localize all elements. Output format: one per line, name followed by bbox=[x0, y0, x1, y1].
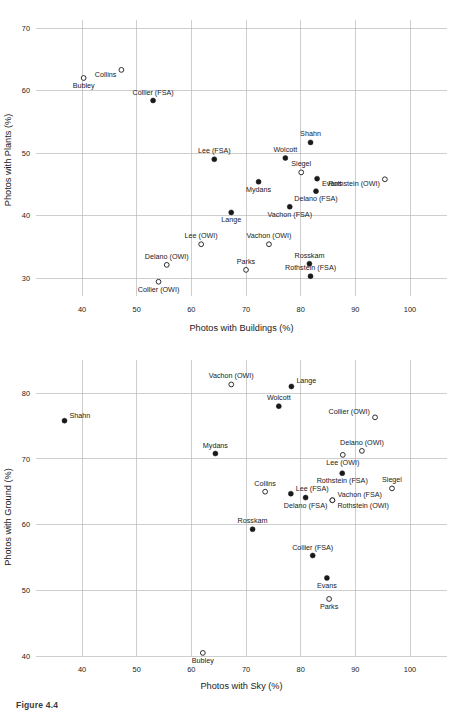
x-tick-label: 70 bbox=[242, 305, 250, 314]
data-point-label: Vachon (OWI) bbox=[209, 371, 254, 380]
y-tick-label: 60 bbox=[22, 520, 30, 529]
data-point-label: Delano (FSA) bbox=[294, 194, 338, 203]
data-point-label: Siegel bbox=[291, 159, 311, 168]
data-point-marker-filled[interactable] bbox=[289, 384, 294, 389]
data-point-marker-filled[interactable] bbox=[256, 179, 261, 184]
data-point-marker-open[interactable] bbox=[390, 486, 395, 491]
y-tick-label: 50 bbox=[22, 586, 30, 595]
y-axis-title: Photos with Ground (%) bbox=[3, 468, 13, 566]
data-point-marker-open[interactable] bbox=[340, 452, 345, 457]
y-axis-title: Photos with Plants (%) bbox=[3, 114, 13, 206]
data-point-label: Rothstein (OWI) bbox=[328, 179, 380, 188]
data-point-marker-filled[interactable] bbox=[283, 156, 288, 161]
data-point-marker-filled[interactable] bbox=[308, 274, 313, 279]
data-point-marker-open[interactable] bbox=[81, 76, 86, 81]
data-point-marker-filled[interactable] bbox=[303, 495, 308, 500]
data-point-label: Lee (FSA) bbox=[198, 146, 231, 155]
x-tick-label: 80 bbox=[297, 305, 305, 314]
data-point-marker-filled[interactable] bbox=[250, 527, 255, 532]
x-tick-label: 90 bbox=[351, 305, 359, 314]
data-point-label: Rothstein (FSA) bbox=[285, 263, 336, 272]
y-tick-label: 70 bbox=[22, 24, 30, 33]
data-point-marker-open[interactable] bbox=[119, 67, 124, 72]
data-point-marker-open[interactable] bbox=[263, 489, 268, 494]
data-point-marker-filled[interactable] bbox=[288, 491, 293, 496]
data-point-label: Collins bbox=[254, 479, 276, 488]
data-point-label: Rothstein (OWI) bbox=[337, 501, 389, 510]
data-point-label: Evans bbox=[317, 581, 337, 590]
x-tick-label: 60 bbox=[187, 665, 195, 674]
plot-area-bottom: 4050607080405060708090100Photos with Sky… bbox=[0, 352, 455, 692]
data-point-marker-open[interactable] bbox=[200, 651, 205, 656]
y-tick-label: 30 bbox=[22, 274, 30, 283]
x-tick-label: 100 bbox=[404, 665, 416, 674]
data-point-label: Lange bbox=[221, 215, 241, 224]
data-point-label: Vachon (FSA) bbox=[267, 210, 312, 219]
x-tick-label: 40 bbox=[78, 305, 86, 314]
x-tick-label: 80 bbox=[297, 665, 305, 674]
data-point-marker-filled[interactable] bbox=[276, 404, 281, 409]
data-point-label: Delano (OWI) bbox=[145, 252, 189, 261]
y-tick-label: 50 bbox=[22, 149, 30, 158]
data-point-marker-open[interactable] bbox=[360, 449, 365, 454]
data-point-label: Shahn bbox=[300, 129, 321, 138]
data-point-label: Delano (FSA) bbox=[284, 501, 328, 510]
data-point-marker-open[interactable] bbox=[382, 177, 387, 182]
data-point-marker-open[interactable] bbox=[299, 170, 304, 175]
data-point-marker-open[interactable] bbox=[330, 498, 335, 503]
data-point-label: Collier (FSA) bbox=[133, 88, 174, 97]
data-point-marker-filled[interactable] bbox=[213, 451, 218, 456]
scatter-chart-plants-vs-buildings: 3040506070405060708090100Photos with Bui… bbox=[0, 0, 455, 352]
data-point-label: Collier (OWI) bbox=[138, 285, 180, 294]
data-point-label: Lange bbox=[296, 376, 316, 385]
data-point-marker-filled[interactable] bbox=[308, 140, 313, 145]
data-point-marker-filled[interactable] bbox=[313, 189, 318, 194]
data-point-marker-filled[interactable] bbox=[340, 471, 345, 476]
x-tick-label: 90 bbox=[351, 665, 359, 674]
data-point-label: Rosskam bbox=[294, 251, 324, 260]
data-point-marker-open[interactable] bbox=[373, 415, 378, 420]
data-point-label: Parks bbox=[237, 257, 256, 266]
data-point-label: Siegel bbox=[382, 475, 402, 484]
data-point-label: Mydans bbox=[203, 441, 229, 450]
data-point-marker-open[interactable] bbox=[327, 597, 332, 602]
data-point-marker-filled[interactable] bbox=[229, 210, 234, 215]
data-point-marker-open[interactable] bbox=[164, 262, 169, 267]
data-point-marker-filled[interactable] bbox=[315, 176, 320, 181]
data-point-label: Vachon (OWI) bbox=[246, 231, 291, 240]
y-tick-label: 80 bbox=[22, 389, 30, 398]
data-point-marker-open[interactable] bbox=[229, 382, 234, 387]
y-tick-label: 60 bbox=[22, 86, 30, 95]
y-tick-label: 40 bbox=[22, 211, 30, 220]
data-point-label: Lee (OWI) bbox=[185, 231, 218, 240]
x-tick-label: 70 bbox=[242, 665, 250, 674]
data-point-marker-open[interactable] bbox=[244, 267, 249, 272]
figure-caption: Figure 4.4 bbox=[16, 700, 58, 711]
data-point-label: Wolcott bbox=[267, 393, 291, 402]
data-point-marker-filled[interactable] bbox=[62, 418, 67, 423]
data-point-marker-filled[interactable] bbox=[310, 553, 315, 558]
plot-area-top: 3040506070405060708090100Photos with Bui… bbox=[0, 0, 455, 352]
data-point-marker-filled[interactable] bbox=[287, 204, 292, 209]
data-point-label: Collins bbox=[95, 70, 117, 79]
data-point-label: Lee (FSA) bbox=[296, 484, 329, 493]
data-point-label: Delano (OWI) bbox=[340, 438, 384, 447]
data-point-marker-filled[interactable] bbox=[324, 575, 329, 580]
data-point-marker-filled[interactable] bbox=[151, 98, 156, 103]
data-point-label: Shahn bbox=[70, 411, 91, 420]
data-point-label: Vachon (FSA) bbox=[337, 490, 382, 499]
data-point-marker-open[interactable] bbox=[267, 242, 272, 247]
x-tick-label: 60 bbox=[187, 305, 195, 314]
data-point-label: Mydans bbox=[246, 185, 272, 194]
x-tick-label: 50 bbox=[133, 665, 141, 674]
data-point-marker-open[interactable] bbox=[156, 279, 161, 284]
data-point-marker-filled[interactable] bbox=[212, 157, 217, 162]
data-point-marker-open[interactable] bbox=[199, 242, 204, 247]
data-point-label: Lee (OWI) bbox=[326, 458, 359, 467]
y-tick-label: 40 bbox=[22, 652, 30, 661]
data-point-label: Bubley bbox=[73, 81, 95, 90]
data-point-label: Bubley bbox=[192, 656, 214, 665]
data-point-label: Parks bbox=[320, 602, 339, 611]
x-axis-title: Photos with Sky (%) bbox=[200, 681, 282, 691]
data-point-label: Collier (FSA) bbox=[292, 543, 333, 552]
